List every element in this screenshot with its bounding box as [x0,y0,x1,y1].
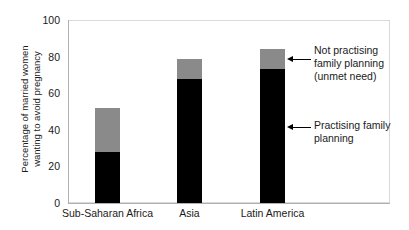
bar-segment-unmet-need-latin-america[interactable] [260,49,285,69]
annotation-label-unmet-need: Not practising family planning (unmet ne… [314,44,384,83]
x-axis-line [68,203,390,204]
y-axis-title-line-1: Percentage of married women [19,9,31,209]
y-tick-80: 80 [48,51,60,63]
y-tick-40: 40 [48,124,60,136]
bar-asia[interactable] [177,27,202,203]
bar-segment-unmet-need-asia[interactable] [177,59,202,79]
y-tick-0: 0 [54,197,60,209]
y-tick-20: 20 [48,160,60,172]
stacked-bar-chart-figure: 100 80 60 40 20 0 Percentage of married … [0,0,409,230]
bar-latin-america[interactable] [260,27,285,203]
bar-segment-unmet-need-sub-saharan-africa[interactable] [95,108,120,152]
bar-segment-practising-asia[interactable] [177,79,202,203]
bar-segment-practising-sub-saharan-africa[interactable] [95,152,120,203]
annotation-label-practising: Practising family planning [314,119,390,145]
annotation-leader-line-practising [293,127,311,128]
y-axis-title-line-2: wanting to avoid pregnancy [31,9,43,209]
y-axis-line [68,20,69,204]
bar-sub-saharan-africa[interactable] [95,27,120,203]
x-tick-sub-saharan-africa: Sub-Saharan Africa [62,207,153,219]
y-tick-100: 100 [42,14,60,26]
bar-segment-practising-latin-america[interactable] [260,69,285,203]
annotation-leader-line-unmet-need [293,59,311,60]
x-tick-latin-america: Latin America [241,207,305,219]
y-axis-title: Percentage of married women wanting to a… [19,9,43,209]
x-tick-asia: Asia [179,207,199,219]
y-tick-60: 60 [48,87,60,99]
